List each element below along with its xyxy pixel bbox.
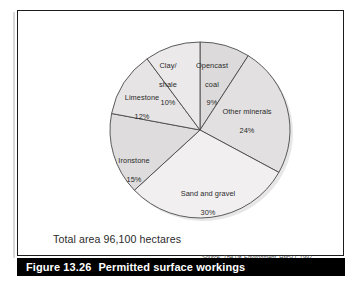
pie-chart-svg (93, 25, 293, 221)
page-edge-shadow (13, 12, 15, 258)
pie-chart: Opencast coal 9% Other minerals 24% Sand… (93, 25, 293, 221)
pie-slice-group (110, 42, 290, 218)
figure-title: Permitted surface workings (98, 261, 245, 273)
figure-caption-bar: Figure 13.26 Permitted surface workings (17, 258, 345, 276)
figure-container: Opencast coal 9% Other minerals 24% Sand… (0, 0, 357, 286)
figure-number: Figure 13.26 (26, 261, 91, 273)
chart-panel: Opencast coal 9% Other minerals 24% Sand… (17, 10, 344, 256)
total-area-text: Total area 96,100 hectares (53, 233, 181, 245)
